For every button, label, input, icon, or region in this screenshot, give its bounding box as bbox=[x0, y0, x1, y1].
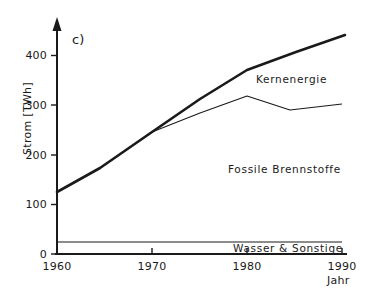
y-tick-label-300: 300 bbox=[18, 100, 47, 111]
y-tick-label-0: 0 bbox=[18, 249, 47, 260]
x-tick-label-1970: 1970 bbox=[127, 261, 177, 272]
y-tick-label-200: 200 bbox=[18, 150, 47, 161]
y-tick-label-100: 100 bbox=[18, 199, 47, 210]
x-tick-label-1960: 1960 bbox=[32, 261, 82, 272]
y-axis-title: Strom [TWh] bbox=[22, 82, 33, 155]
x-axis-title: Jahr bbox=[327, 275, 350, 286]
y-tick-label-400: 400 bbox=[18, 50, 47, 61]
x-tick-label-1990: 1990 bbox=[317, 261, 367, 272]
series-label-fossile-brennstoffe: Fossile Brennstoffe bbox=[228, 164, 341, 175]
x-tick-label-1980: 1980 bbox=[222, 261, 272, 272]
series-fossile-brennstoffe-line bbox=[57, 96, 342, 192]
series-label-kernenergie: Kernenergie bbox=[256, 74, 327, 85]
y-axis bbox=[53, 17, 62, 254]
panel-letter: c) bbox=[72, 33, 84, 46]
series-label-wasser-sonstige: Wasser & Sonstige bbox=[233, 243, 343, 254]
chart-figure: c) Strom [TWh] Jahr 0 100 200 300 400 19… bbox=[0, 0, 370, 297]
